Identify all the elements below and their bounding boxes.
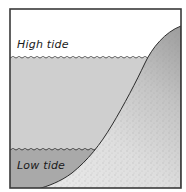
high-tide-label: High tide — [17, 38, 69, 51]
low-tide-label: Low tide — [17, 159, 65, 172]
